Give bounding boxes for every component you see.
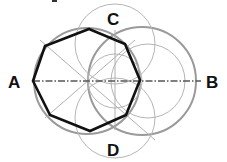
label-a: A <box>8 73 20 92</box>
label-c: C <box>107 10 119 29</box>
cropped-text-fragment <box>52 0 57 2</box>
label-b: B <box>206 73 218 92</box>
octagon-construction-diagram: A B C D <box>0 0 227 162</box>
label-d: D <box>107 141 119 160</box>
